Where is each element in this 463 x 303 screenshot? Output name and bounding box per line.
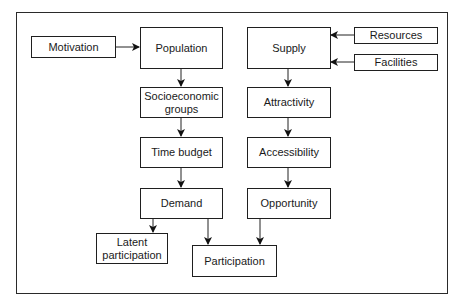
node-resources-label: Resources <box>370 29 423 42</box>
node-time-budget: Time budget <box>140 137 223 168</box>
node-latent-line1: Latent <box>117 236 148 249</box>
node-accessibility: Accessibility <box>247 137 331 168</box>
node-motivation-label: Motivation <box>48 41 98 54</box>
node-opportunity: Opportunity <box>247 188 331 219</box>
node-demand-label: Demand <box>161 197 203 210</box>
node-supply-label: Supply <box>272 42 306 55</box>
node-accessibility-label: Accessibility <box>259 146 319 159</box>
node-demand: Demand <box>140 188 223 219</box>
node-population: Population <box>140 27 223 69</box>
node-socioeconomic-groups: Socioeconomic groups <box>140 87 223 118</box>
node-attractivity-label: Attractivity <box>264 96 315 109</box>
node-opportunity-label: Opportunity <box>261 197 318 210</box>
node-supply: Supply <box>247 27 331 69</box>
node-attractivity: Attractivity <box>247 87 331 118</box>
node-socioeconomic-line2: groups <box>165 103 199 116</box>
node-population-label: Population <box>156 42 208 55</box>
node-facilities-label: Facilities <box>375 56 418 69</box>
node-motivation: Motivation <box>31 36 116 58</box>
node-participation-label: Participation <box>204 255 265 268</box>
node-socioeconomic-line1: Socioeconomic <box>144 90 219 103</box>
node-facilities: Facilities <box>354 54 438 71</box>
node-latent-line2: participation <box>102 249 161 262</box>
node-participation: Participation <box>192 245 277 277</box>
node-time-budget-label: Time budget <box>151 146 212 159</box>
node-latent-participation: Latent participation <box>96 233 168 264</box>
node-resources: Resources <box>354 27 438 44</box>
